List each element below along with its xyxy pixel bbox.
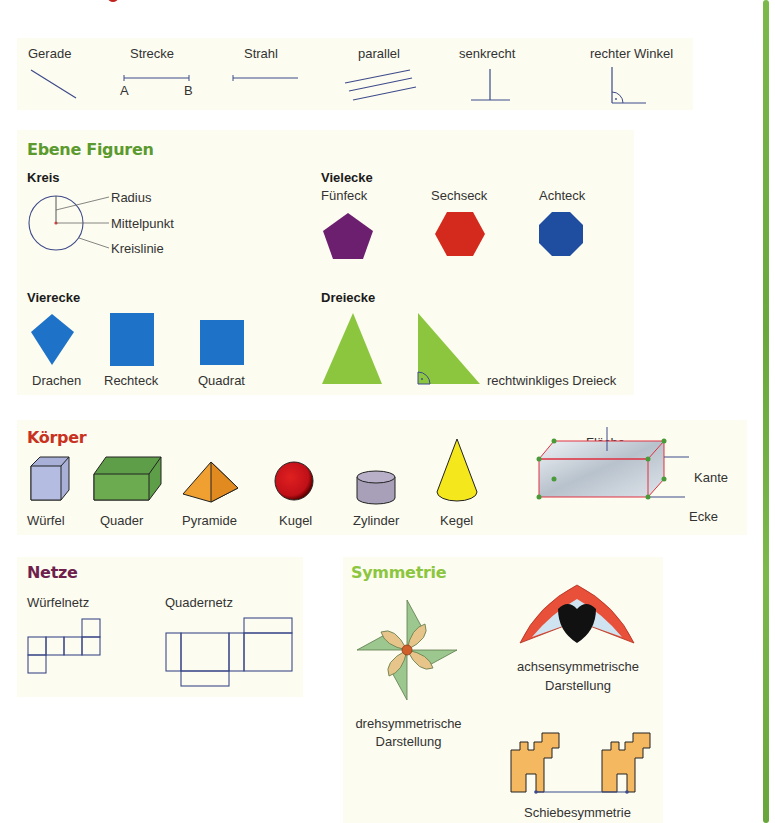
quadernetz-diagram: [165, 617, 295, 689]
heading-dreiecke: Dreiecke: [321, 290, 375, 305]
dreh-label-line1: drehsymmetrische: [351, 715, 466, 733]
pentagon-shape: [322, 212, 374, 260]
label-senkrecht: senkrecht: [459, 46, 515, 61]
hexagon-shape: [434, 211, 486, 257]
triangle-shape: [321, 312, 383, 385]
pinwheel-icon: [355, 598, 459, 702]
rectangle-shape: [110, 313, 155, 367]
quader-diagram: [535, 449, 705, 521]
section-title-symmetrie: Symmetrie: [351, 563, 446, 582]
page-border-stripe: [763, 0, 769, 823]
point-b-label: B: [184, 83, 193, 98]
label-strahl: Strahl: [244, 46, 278, 61]
label-pyramide: Pyramide: [182, 513, 237, 528]
strecke-icon: [123, 74, 191, 82]
label-drachen: Drachen: [32, 373, 81, 388]
gerade-icon: [30, 68, 80, 100]
achsen-label-line1: achsensymmetrische: [508, 657, 648, 676]
octagon-shape: [538, 211, 584, 257]
rechter-winkel-icon: [610, 66, 650, 106]
right-triangle-shape: [417, 312, 481, 385]
wuerfelnetz-diagram: [27, 618, 103, 676]
label-wuerfelnetz: Würfelnetz: [27, 595, 89, 610]
square-shape: [200, 320, 245, 366]
kite-symmetry-icon: [518, 583, 636, 645]
label-mittelpunkt: Mittelpunkt: [111, 216, 174, 231]
kegel-shape: [436, 438, 478, 506]
section-title-koerper: Körper: [27, 428, 86, 447]
achsen-label: achsensymmetrische Darstellung: [508, 657, 648, 695]
zylinder-shape: [356, 470, 396, 506]
label-fuenfeck: Fünfeck: [321, 188, 367, 203]
section-title-netze: Netze: [27, 563, 78, 582]
point-a-label: A: [120, 83, 129, 98]
label-quadrat: Quadrat: [198, 373, 245, 388]
achsen-label-line2: Darstellung: [508, 676, 648, 695]
heading-vielecke: Vielecke: [321, 170, 373, 185]
label-gerade: Gerade: [28, 46, 71, 61]
parallel-icon: [344, 68, 414, 102]
kite-shape: [30, 313, 76, 367]
label-parallel: parallel: [358, 46, 400, 61]
senkrecht-icon: [470, 68, 512, 102]
dreh-label: drehsymmetrische Darstellung: [351, 715, 466, 751]
pyramide-shape: [182, 461, 240, 503]
label-strecke: Strecke: [130, 46, 174, 61]
label-rechteck: Rechteck: [104, 373, 158, 388]
label-schiebesymmetrie: Schiebesymmetrie: [524, 805, 631, 820]
label-kugel: Kugel: [279, 513, 312, 528]
label-sechseck: Sechseck: [431, 188, 487, 203]
schiebe-symmetry-icon: [510, 732, 655, 796]
heading-kreis: Kreis: [27, 170, 60, 185]
quader-shape: [93, 456, 163, 502]
label-radius: Radius: [111, 190, 151, 205]
label-kante: Kante: [694, 470, 728, 485]
label-achteck: Achteck: [539, 188, 585, 203]
label-zylinder: Zylinder: [353, 513, 399, 528]
wuerfel-shape: [30, 456, 72, 502]
dreh-label-line2: Darstellung: [351, 733, 466, 751]
label-wuerfel: Würfel: [27, 513, 65, 528]
label-kreislinie: Kreislinie: [111, 241, 164, 256]
label-ecke: Ecke: [689, 509, 718, 524]
section-title-ebene-figuren: Ebene Figuren: [27, 140, 154, 159]
decorative-dot: [108, 0, 118, 2]
label-quadernetz: Quadernetz: [165, 595, 233, 610]
kugel-shape: [274, 461, 316, 503]
strahl-icon: [232, 74, 300, 82]
heading-vierecke: Vierecke: [27, 290, 80, 305]
label-quader: Quader: [100, 513, 143, 528]
label-kegel: Kegel: [440, 513, 473, 528]
label-rechtwinkliges-dreieck: rechtwinkliges Dreieck: [487, 373, 616, 388]
label-rechter-winkel: rechter Winkel: [590, 46, 673, 61]
